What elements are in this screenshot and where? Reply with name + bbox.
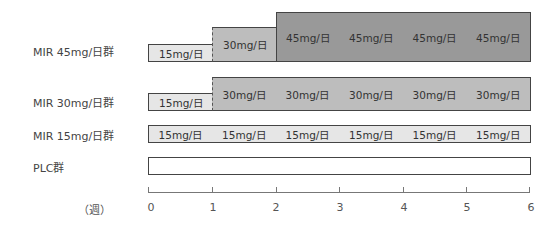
dose-segment: 30mg/日 [403,77,467,111]
dose-segment: 30mg/日 [466,77,531,111]
dose-segment: 15mg/日 [276,125,340,143]
axis-tick-label: 4 [401,201,408,214]
dose-segment: 15mg/日 [212,125,277,143]
placebo-segment [276,157,340,175]
dose-segment: 30mg/日 [339,77,404,111]
axis-tick-label: 1 [210,201,217,214]
group-label-mir-15: MIR 15mg/日群 [33,127,114,143]
dose-segment: 30mg/日 [212,77,277,111]
placebo-segment [212,157,277,175]
placebo-segment [466,157,531,175]
axis-tick [148,187,149,193]
dose-segment: 45mg/日 [276,12,340,62]
axis-tick [339,187,340,193]
dose-segment: 15mg/日 [148,44,213,62]
axis-tick-label: 6 [528,201,535,214]
dose-segment: 45mg/日 [466,12,531,62]
placebo-segment [148,157,213,175]
axis-tick [403,187,404,193]
dose-segment: 15mg/日 [466,125,531,143]
axis-tick-label: 2 [273,201,280,214]
axis-tick [276,187,277,193]
dose-segment: 15mg/日 [148,125,213,143]
dose-segment: 30mg/日 [276,77,340,111]
dose-segment: 30mg/日 [212,27,277,62]
axis-tick [466,187,467,193]
placebo-segment [339,157,404,175]
axis-tick [529,187,530,193]
dose-segment: 45mg/日 [403,12,467,62]
dose-segment: 15mg/日 [148,93,213,111]
group-label-plc: PLC群 [33,159,64,175]
dose-segment: 45mg/日 [339,12,404,62]
group-label-mir-45: MIR 45mg/日群 [33,43,114,59]
axis-unit-label: （週） [78,201,111,217]
axis-tick-label: 5 [464,201,471,214]
dose-segment: 15mg/日 [403,125,467,143]
axis-tick [212,187,213,193]
dose-segment: 15mg/日 [339,125,404,143]
axis-tick-label: 3 [337,201,344,214]
placebo-segment [403,157,467,175]
axis-tick-label: 0 [148,201,155,214]
group-label-mir-30: MIR 30mg/日群 [33,94,114,110]
